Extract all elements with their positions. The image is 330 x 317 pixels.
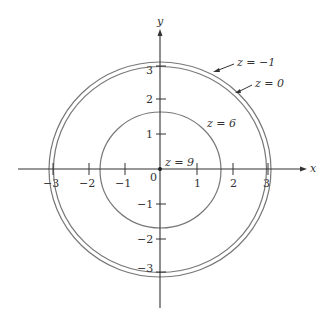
level-label-z-0: z = 0 [254,77,284,90]
level-label-z-9: z = 9 [164,156,194,169]
origin-label: 0 [150,171,157,184]
contour-diagram: x y 0 −3 −2 −1 1 2 3 3 2 1 −1 −2 −3 z = … [0,0,330,317]
level-label-z-6: z = 6 [206,117,236,130]
x-axis-label: x [310,162,317,175]
arrowhead-icon [213,68,220,72]
x-tick-label: −2 [79,177,95,190]
origin-point [158,167,162,171]
x-tick-label: −3 [43,177,59,190]
x-axis-arrow-icon [300,167,307,172]
x-tick-label: 2 [230,177,237,190]
x-tick-label: −1 [115,177,131,190]
level-label-z-neg1: z = −1 [236,56,275,69]
y-axis-arrow-icon [158,29,163,36]
y-tick-label: 2 [146,93,153,106]
y-tick-label: −1 [137,198,153,211]
x-tick-label: 1 [194,177,201,190]
y-tick-label: 1 [146,128,153,141]
y-tick-label: −3 [137,262,153,275]
y-tick-label: −2 [137,233,153,246]
x-tick-label: 3 [263,177,270,190]
y-axis-label: y [156,15,164,28]
y-tick-label: 3 [146,64,153,77]
